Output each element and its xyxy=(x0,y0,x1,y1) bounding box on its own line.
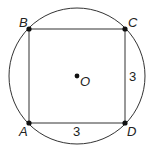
label-a: A xyxy=(18,124,28,139)
point-c xyxy=(122,26,127,31)
geometry-diagram: B C A D O 3 3 xyxy=(0,0,152,149)
side-cd-length: 3 xyxy=(129,69,136,84)
center-point-o xyxy=(75,74,80,79)
label-c: C xyxy=(128,15,138,30)
side-ad-length: 3 xyxy=(73,124,80,139)
label-b: B xyxy=(19,15,28,30)
label-d: D xyxy=(127,124,136,139)
label-o: O xyxy=(80,74,90,89)
